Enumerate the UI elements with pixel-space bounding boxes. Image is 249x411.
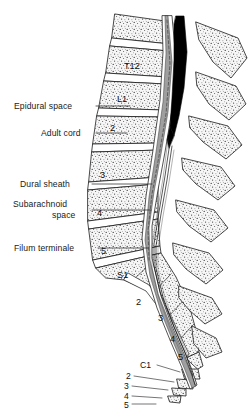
callout-epidural-space: Epidural space [14,101,72,111]
callout-filum-terminale: Filum terminale [14,243,74,253]
coccyx-label-c3: 3 [124,381,129,391]
callout-dural-sheath: Dural sheath [20,179,70,189]
callout-subarachnoid-space: Subarachnoid [13,199,67,209]
vertebra-label-l3: 3 [100,170,105,180]
coccyx-label-c1: C1 [140,360,151,370]
vertebra-label-s4: 4 [170,334,175,344]
vertebra-label-l2: 2 [110,123,115,133]
vertebra-label-l4: 4 [97,208,102,218]
vertebra-label-t12: T12 [124,61,140,71]
vertebra-label-s5: 5 [178,352,183,362]
vertebra-label-s1: S1 [117,270,128,280]
vertebra-label-s3: 3 [158,313,163,323]
spinal-column-diagram: Epidural space Adult cord Dural sheath S… [0,0,249,411]
vertebra-label-l1: L1 [117,94,127,104]
coccyx-label-c5: 5 [124,400,129,410]
callout-subarachnoid-space-line2: space [52,210,75,220]
callout-adult-cord: Adult cord [41,128,81,138]
coccyx-label-c2: 2 [126,371,131,381]
vertebra-label-l5: 5 [101,246,106,256]
vertebra-label-s2: 2 [136,297,141,307]
